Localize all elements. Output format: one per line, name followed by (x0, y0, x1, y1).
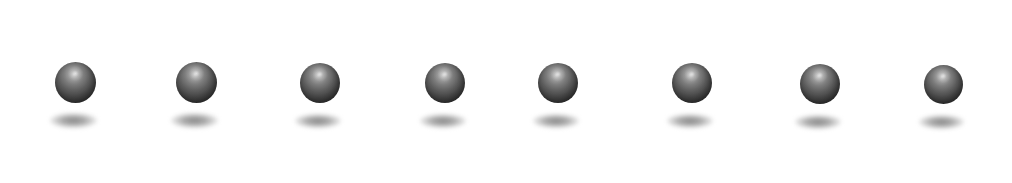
sphere (300, 63, 340, 103)
sphere-drop-shadow (50, 113, 97, 128)
sphere-drop-shadow (295, 114, 341, 128)
sphere (176, 62, 217, 103)
sphere-drop-shadow (420, 114, 466, 128)
sphere-drop-shadow (171, 113, 218, 128)
sphere-drop-shadow (919, 115, 964, 129)
sphere (924, 65, 963, 104)
sphere (55, 62, 96, 103)
sphere-drop-shadow (533, 114, 579, 128)
sphere (672, 63, 712, 103)
sphere (538, 63, 578, 103)
sphere (425, 63, 465, 103)
sphere-drop-shadow (795, 115, 841, 129)
sphere (800, 64, 840, 104)
sphere-drop-shadow (667, 114, 713, 128)
sphere-row-scene (0, 0, 1012, 183)
